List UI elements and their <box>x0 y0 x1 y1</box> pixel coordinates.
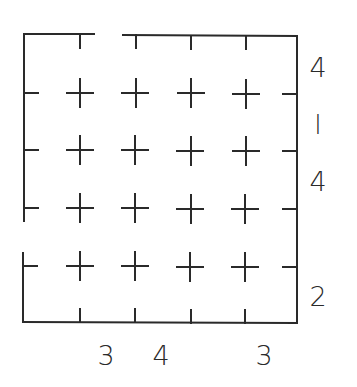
plus-marker-row-1 <box>67 79 259 108</box>
plus-marker-row-4 <box>67 252 258 281</box>
border-bottom <box>23 322 297 323</box>
border-top-right-segment <box>123 35 297 36</box>
right-clue-3: 4 <box>309 166 326 197</box>
plus-marker-row-3 <box>67 194 258 223</box>
grid-diagram: 4 l 4 2 3 4 3 <box>0 0 357 387</box>
bottom-clue-3: 3 <box>255 340 272 371</box>
right-clue-1: 4 <box>309 52 326 83</box>
right-clue-4: 2 <box>309 281 326 312</box>
plus-marker-row-2 <box>67 136 259 165</box>
right-clue-2: l <box>314 109 322 140</box>
bottom-clue-2: 4 <box>152 340 169 371</box>
bottom-clue-1: 3 <box>97 340 114 371</box>
